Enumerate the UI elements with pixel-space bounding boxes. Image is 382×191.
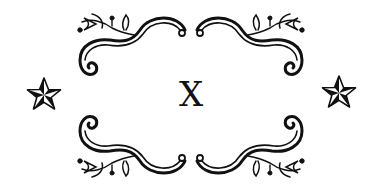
center-letter: X — [171, 72, 211, 116]
right-star-icon — [323, 76, 356, 107]
scroll-top-right — [197, 14, 304, 74]
scroll-top-left — [78, 14, 185, 74]
scroll-bottom-left — [78, 117, 185, 177]
scroll-bottom-right — [197, 117, 304, 177]
ornament-frame: X — [0, 0, 382, 191]
left-star-icon — [28, 78, 61, 109]
